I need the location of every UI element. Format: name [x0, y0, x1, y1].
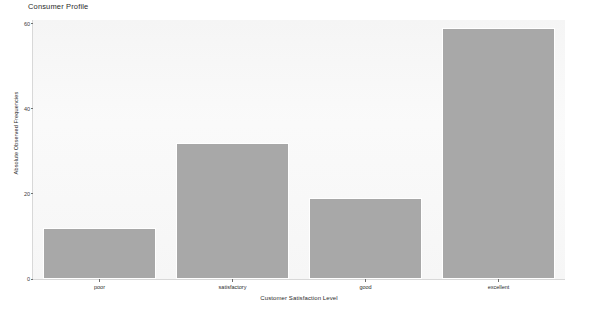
- y-tick-mark: [31, 279, 34, 280]
- x-tick-mark: [365, 279, 366, 282]
- x-tick-mark: [99, 279, 100, 282]
- bar-good: [309, 198, 422, 279]
- y-tick-0: 0: [0, 275, 33, 283]
- x-tick-satisfactory: satisfactory: [193, 279, 273, 290]
- y-tick-mark: [31, 108, 34, 109]
- y-axis-label: Absolute Observed Frequencies: [13, 73, 19, 193]
- bar-poor: [43, 228, 156, 279]
- y-axis-line: [32, 20, 33, 279]
- bar-satisfactory: [176, 143, 289, 279]
- x-tick-mark: [232, 279, 233, 282]
- x-tick-excellent: excellent: [459, 279, 539, 290]
- x-tick-label: satisfactory: [219, 284, 247, 290]
- x-tick-poor: poor: [60, 279, 140, 290]
- plot-area: [33, 20, 565, 279]
- x-axis-label: Customer Satisfaction Level: [33, 295, 565, 301]
- y-tick-mark: [31, 193, 34, 194]
- y-tick-60: 60: [0, 20, 33, 28]
- x-tick-label: good: [359, 284, 371, 290]
- y-tick-mark: [31, 23, 34, 24]
- chart-title: Consumer Profile: [28, 2, 88, 11]
- x-tick-label: excellent: [488, 284, 510, 290]
- x-tick-mark: [498, 279, 499, 282]
- bar-excellent: [442, 28, 555, 279]
- x-tick-good: good: [326, 279, 406, 290]
- x-tick-label: poor: [94, 284, 105, 290]
- bar-series: [33, 20, 565, 279]
- chart-figure: Consumer Profile 0204060 poorsatisfactor…: [0, 0, 590, 314]
